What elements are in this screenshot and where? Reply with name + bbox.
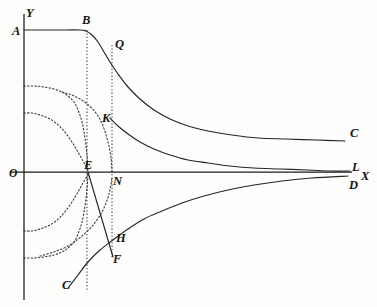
point-labels: YABQCKOENLXDHFC bbox=[9, 6, 370, 292]
label-H: H bbox=[115, 231, 127, 245]
solid-curves bbox=[24, 30, 350, 288]
curve-asymptote-inner-upper bbox=[24, 113, 88, 172]
label-C1: C bbox=[350, 126, 359, 140]
label-O: O bbox=[9, 167, 17, 179]
curve-asymptote-outer-lower bbox=[24, 174, 88, 258]
curve-CHD-lower bbox=[68, 176, 348, 288]
curve-asymptote-inner-lower bbox=[24, 172, 88, 231]
figure-root: YABQCKOENLXDHFC bbox=[0, 0, 377, 307]
label-B: B bbox=[81, 13, 90, 27]
curve-ABQC bbox=[24, 30, 345, 141]
label-A: A bbox=[11, 24, 20, 38]
label-F: F bbox=[112, 252, 122, 266]
label-E: E bbox=[83, 158, 92, 172]
curve-EF-line bbox=[88, 172, 113, 257]
label-N: N bbox=[112, 174, 123, 188]
axes bbox=[10, 14, 352, 300]
curve-diagram: YABQCKOENLXDHFC bbox=[0, 0, 377, 307]
label-X: X bbox=[360, 169, 370, 183]
curve-KL-upper bbox=[110, 118, 350, 171]
label-L: L bbox=[351, 160, 360, 174]
label-D: D bbox=[348, 178, 358, 192]
label-Q: Q bbox=[115, 37, 124, 51]
label-Y: Y bbox=[26, 6, 35, 20]
label-C2: C bbox=[62, 278, 71, 292]
